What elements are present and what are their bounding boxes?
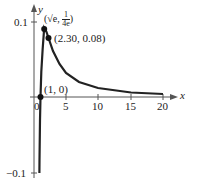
chart-plot — [0, 0, 198, 188]
tick-label-5: 5 — [63, 101, 69, 112]
label-root: (1, 0) — [44, 84, 68, 95]
point-inflection — [46, 35, 52, 41]
label-maximum: (√e, 1 4e ) — [44, 11, 73, 28]
ytick-label-top: 0.1 — [14, 17, 28, 28]
x-axis-arrow-icon — [170, 94, 178, 100]
ytick-label-bottom: −0.1 — [6, 168, 26, 179]
label-inflection: (2.30, 0.08) — [54, 33, 105, 44]
tick-label-0: 0 — [34, 101, 40, 112]
y-axis-label: y — [38, 4, 43, 15]
x-axis-label: x — [180, 90, 185, 101]
y-axis-arrow-icon — [31, 4, 37, 12]
tick-label-10: 10 — [92, 101, 103, 112]
tick-label-15: 15 — [125, 101, 136, 112]
tick-label-20: 20 — [157, 101, 168, 112]
